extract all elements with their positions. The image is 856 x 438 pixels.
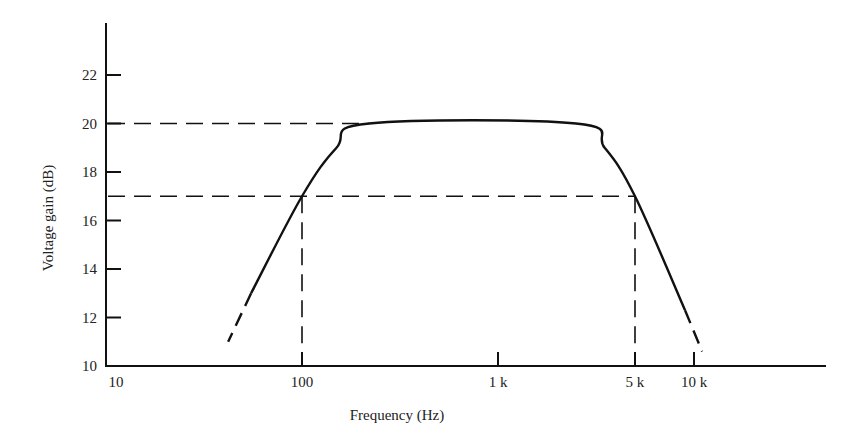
x-tick-label: 1 k: [489, 374, 508, 390]
x-axis-label: Frequency (Hz): [350, 407, 445, 424]
y-ticks: 10121416182022: [82, 67, 121, 374]
x-tick-label: 10 k: [681, 374, 708, 390]
cutoff-guides: [108, 124, 635, 367]
y-tick-label: 12: [82, 310, 97, 326]
y-tick-label: 14: [82, 261, 98, 277]
response-extrapolation-line: [685, 310, 702, 351]
x-ticks: 101001 k5 k10 k: [109, 352, 708, 390]
y-tick-label: 18: [82, 164, 97, 180]
y-tick-label: 20: [82, 116, 97, 132]
x-tick-label: 10: [109, 374, 124, 390]
response-extrapolation-line: [228, 293, 251, 342]
response-curve: [228, 120, 702, 351]
frequency-response-chart: 10121416182022 101001 k5 k10 k Frequency…: [0, 0, 856, 438]
y-tick-label: 10: [82, 358, 97, 374]
y-tick-label: 16: [82, 213, 98, 229]
x-tick-label: 5 k: [626, 374, 645, 390]
x-tick-label: 100: [291, 374, 314, 390]
response-curve-line: [251, 120, 685, 310]
axes: [105, 23, 826, 367]
y-tick-label: 22: [82, 67, 97, 83]
y-axis-label: Voltage gain (dB): [40, 165, 57, 271]
